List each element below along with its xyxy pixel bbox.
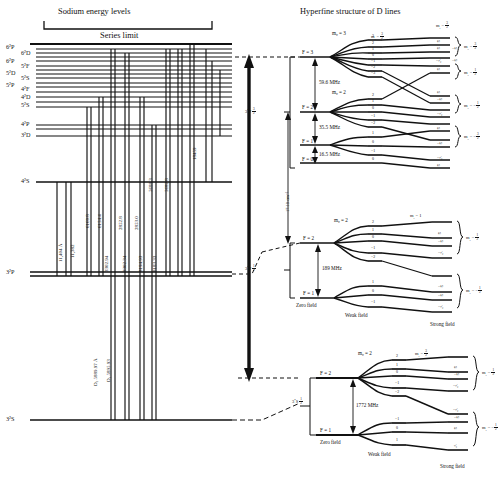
mf-value: 0 xyxy=(396,371,398,375)
strong-field-label: Strong field xyxy=(440,464,465,469)
mj-bracket-label: mJ = −12 xyxy=(482,424,498,433)
mf-value: 1 xyxy=(396,364,398,368)
weak-field-label: Weak field xyxy=(368,452,390,457)
mf-value: −1 xyxy=(395,382,399,386)
mf-value: 1 xyxy=(396,439,398,443)
zero-field-label: Zero field xyxy=(320,440,341,445)
state-label-3s12: 32S 12 xyxy=(292,398,303,406)
mf-value: 2 xyxy=(396,355,398,359)
mi-header: mI = 32 xyxy=(415,350,428,359)
mj-bracket-label: mJ = 12 xyxy=(482,369,495,378)
f-level-label: F = 2 xyxy=(320,371,331,376)
mf-value: −1 xyxy=(395,418,399,422)
f-level-label: F = 1 xyxy=(320,428,331,433)
mf-header: mᵩ = 2 xyxy=(358,351,372,356)
splitting-label: 1772 MHz xyxy=(356,403,378,408)
mf-value: 0 xyxy=(396,427,398,431)
mf-value: −2 xyxy=(395,391,399,395)
